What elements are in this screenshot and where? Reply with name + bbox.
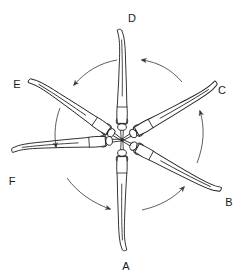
- arrow-d-to-e: [74, 60, 117, 85]
- label-d: D: [128, 13, 136, 24]
- label-a: A: [122, 261, 129, 272]
- arrow-a-to-b: [142, 187, 184, 210]
- diver-position-b: [119, 135, 222, 197]
- label-b: B: [225, 197, 232, 208]
- diver-position-f: [11, 134, 122, 153]
- diver-position-d: [116, 29, 128, 140]
- diver-rotation-figure: [0, 0, 244, 280]
- arrow-f-to-a: [67, 178, 110, 209]
- rotation-arrows: [55, 60, 203, 210]
- diver-position-a: [116, 140, 128, 251]
- diver-position-e: [27, 73, 125, 145]
- diver-position-c: [119, 80, 221, 145]
- rotation-diagram: A B C D E F: [0, 0, 244, 280]
- label-e: E: [13, 79, 20, 90]
- arrow-b-to-c: [197, 111, 203, 163]
- label-f: F: [9, 176, 16, 187]
- arrow-c-to-d: [142, 60, 182, 82]
- label-c: C: [218, 85, 226, 96]
